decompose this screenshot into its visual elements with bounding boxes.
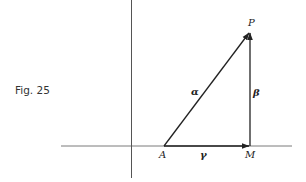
vector-label-alpha: α — [191, 86, 199, 97]
vector-label-beta: β — [253, 87, 260, 98]
point-label-a: A — [159, 149, 166, 160]
figure-caption: Fig. 25 — [15, 84, 50, 96]
vector-label-gamma: γ — [200, 149, 207, 160]
point-label-m: M — [245, 149, 255, 160]
vector-alpha — [164, 33, 249, 146]
point-label-p: P — [248, 17, 255, 28]
